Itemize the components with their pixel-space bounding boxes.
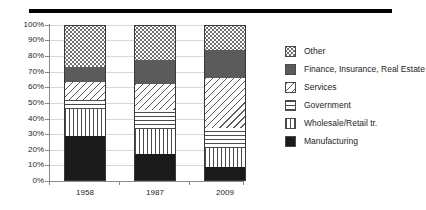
x-axis-line <box>49 181 243 182</box>
ytick-label-80: 80% <box>2 52 44 60</box>
xtick-label-1958: 1958 <box>55 188 115 197</box>
ytick-label-100: 100% <box>2 21 44 29</box>
segment-2009-services[interactable] <box>204 78 246 128</box>
ytick-label-10: 10% <box>2 161 44 169</box>
xtick-label-1987: 1987 <box>125 188 185 197</box>
segment-2009-government[interactable] <box>204 128 246 148</box>
chart-page: 100% 90% 80% 70% 60% 50% 40% 30% 20% 10%… <box>0 0 426 210</box>
segment-2009-other[interactable] <box>204 25 246 50</box>
segment-1958-services[interactable] <box>64 82 106 100</box>
legend-swatch-manufacturing-icon <box>285 136 296 147</box>
y-axis-line <box>49 24 50 182</box>
segment-1987-wholesale-retail[interactable] <box>134 129 176 154</box>
stacked-bar-chart: 100% 90% 80% 70% 60% 50% 40% 30% 20% 10%… <box>0 0 426 210</box>
ytick-label-20: 20% <box>2 146 44 154</box>
legend-label-wholesale-retail: Wholesale/Retail tr. <box>304 117 377 129</box>
legend-label-other: Other <box>304 45 325 57</box>
legend-label-manufacturing: Manufacturing <box>304 135 358 147</box>
segment-1987-manufacturing[interactable] <box>134 154 176 181</box>
legend-swatch-services-icon <box>285 82 296 93</box>
xtick-2 <box>189 181 190 185</box>
segment-1987-finance[interactable] <box>134 60 176 84</box>
xtick-label-2009: 2009 <box>195 188 255 197</box>
legend-swatch-government-icon <box>285 100 296 111</box>
legend-swatch-other-icon <box>285 46 296 57</box>
segment-1958-finance[interactable] <box>64 67 106 82</box>
legend-swatch-wholesale-retail-icon <box>285 118 296 129</box>
segment-1958-government[interactable] <box>64 100 106 109</box>
segment-1958-wholesale-retail[interactable] <box>64 109 106 136</box>
segment-1958-other[interactable] <box>64 25 106 67</box>
ytick-label-0: 0% <box>2 177 44 185</box>
legend-swatch-finance-icon <box>285 64 296 75</box>
segment-1987-government[interactable] <box>134 110 176 129</box>
xtick-1 <box>119 181 120 185</box>
ytick-label-40: 40% <box>2 115 44 123</box>
xtick-right <box>243 181 244 185</box>
ytick-label-70: 70% <box>2 68 44 76</box>
ytick-label-50: 50% <box>2 99 44 107</box>
segment-2009-wholesale-retail[interactable] <box>204 148 246 167</box>
segment-1958-manufacturing[interactable] <box>64 136 106 181</box>
ytick-label-30: 30% <box>2 130 44 138</box>
segment-2009-manufacturing[interactable] <box>204 167 246 181</box>
legend-label-services: Services <box>304 81 337 93</box>
legend-label-government: Government <box>304 99 351 111</box>
segment-1987-services[interactable] <box>134 84 176 110</box>
segment-1987-other[interactable] <box>134 25 176 60</box>
ytick-label-60: 60% <box>2 83 44 91</box>
legend-label-finance: Finance, Insurance, Real Estate <box>304 63 425 75</box>
ytick-label-90: 90% <box>2 36 44 44</box>
segment-2009-finance[interactable] <box>204 50 246 78</box>
xtick-left <box>49 181 50 185</box>
